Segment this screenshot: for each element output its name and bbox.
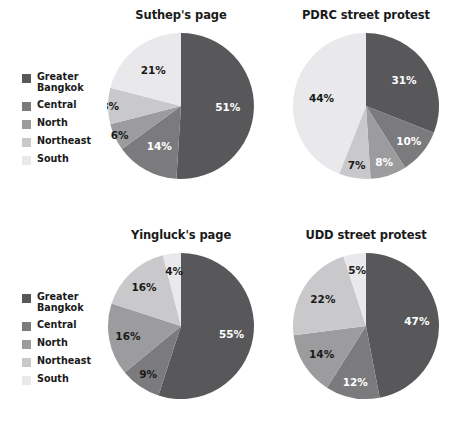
pie-svg: 31%10%8%7%44%	[292, 32, 440, 180]
pie-slice-label: 16%	[115, 330, 141, 342]
pie-slice-label: 31%	[391, 74, 417, 86]
legend-item[interactable]: Central	[22, 100, 91, 111]
pie-chart-figure: Greater BangkokCentralNorthNortheastSout…	[0, 0, 465, 443]
chart-yingluck: Yingluck's page 55%9%16%16%4%	[96, 228, 266, 440]
pie-suthep: 51%14%6%8%21%	[107, 32, 255, 180]
legend-item-label: North	[37, 338, 68, 349]
legend-item[interactable]: North	[22, 338, 91, 349]
legend-swatch-icon	[22, 74, 31, 83]
legend-item-label: Central	[37, 100, 76, 111]
pie-slice-label: 51%	[215, 101, 241, 113]
legend-swatch-icon	[22, 340, 31, 349]
legend-item[interactable]: Greater Bangkok	[22, 292, 91, 313]
legend-item-label: Greater Bangkok	[37, 72, 84, 93]
pie-slice-label: 44%	[309, 92, 335, 104]
legend-item[interactable]: South	[22, 154, 91, 165]
legend-item-label: Central	[37, 320, 76, 331]
legend-item[interactable]: South	[22, 374, 91, 385]
legend-swatch-icon	[22, 156, 31, 165]
pie-svg: 51%14%6%8%21%	[107, 32, 255, 180]
pie-slice-label: 55%	[219, 328, 245, 340]
pie-slice-label: 8%	[375, 156, 393, 168]
legend-item-label: Northeast	[37, 356, 91, 367]
pie-slice-label: 5%	[348, 264, 366, 276]
legend-swatch-icon	[22, 138, 31, 147]
legend-item-label: South	[37, 154, 69, 165]
chart-suthep: Suthep's page 51%14%6%8%21%	[96, 8, 266, 220]
chart-udd: UDD street protest 47%12%14%22%5%	[281, 228, 451, 440]
legend-swatch-icon	[22, 322, 31, 331]
pie-slice-label: 12%	[343, 376, 369, 388]
chart-title: Suthep's page	[96, 8, 266, 22]
pie-slice-label: 10%	[396, 135, 422, 147]
pie-svg: 47%12%14%22%5%	[292, 252, 440, 400]
legend-swatch-icon	[22, 376, 31, 385]
pie-slice-label: 14%	[147, 140, 173, 152]
legend-swatch-icon	[22, 358, 31, 367]
legend-swatch-icon	[22, 294, 31, 303]
pie-slice-label: 47%	[404, 315, 430, 327]
legend-swatch-icon	[22, 102, 31, 111]
legend-item[interactable]: Central	[22, 320, 91, 331]
legend-item[interactable]: Greater Bangkok	[22, 72, 91, 93]
pie-slice-label: 9%	[139, 368, 157, 380]
pie-slice-label: 22%	[310, 293, 336, 305]
pie-udd: 47%12%14%22%5%	[292, 252, 440, 400]
chart-title: PDRC street protest	[281, 8, 451, 22]
chart-pdrc: PDRC street protest 31%10%8%7%44%	[281, 8, 451, 220]
pie-slice-label: 7%	[348, 159, 366, 171]
legend-item[interactable]: Northeast	[22, 356, 91, 367]
chart-title: Yingluck's page	[96, 228, 266, 242]
legend-item-label: Northeast	[37, 136, 91, 147]
legend-item-label: Greater Bangkok	[37, 292, 84, 313]
pie-slice-label: 16%	[131, 281, 157, 293]
legend-swatch-icon	[22, 120, 31, 129]
legend-row-1: Greater BangkokCentralNorthNortheastSout…	[22, 72, 91, 165]
legend-item-label: North	[37, 118, 68, 129]
pie-svg: 55%9%16%16%4%	[107, 252, 255, 400]
legend-item[interactable]: North	[22, 118, 91, 129]
legend-item-label: South	[37, 374, 69, 385]
pie-slice-label: 8%	[107, 100, 120, 112]
pie-pdrc: 31%10%8%7%44%	[292, 32, 440, 180]
pie-slice-label: 4%	[165, 265, 183, 277]
pie-slice-label: 6%	[111, 129, 129, 141]
chart-title: UDD street protest	[281, 228, 451, 242]
legend-item[interactable]: Northeast	[22, 136, 91, 147]
pie-slice-label: 21%	[141, 64, 167, 76]
legend-row-2: Greater BangkokCentralNorthNortheastSout…	[22, 292, 91, 385]
pie-slice-label: 14%	[309, 348, 335, 360]
pie-yingluck: 55%9%16%16%4%	[107, 252, 255, 400]
